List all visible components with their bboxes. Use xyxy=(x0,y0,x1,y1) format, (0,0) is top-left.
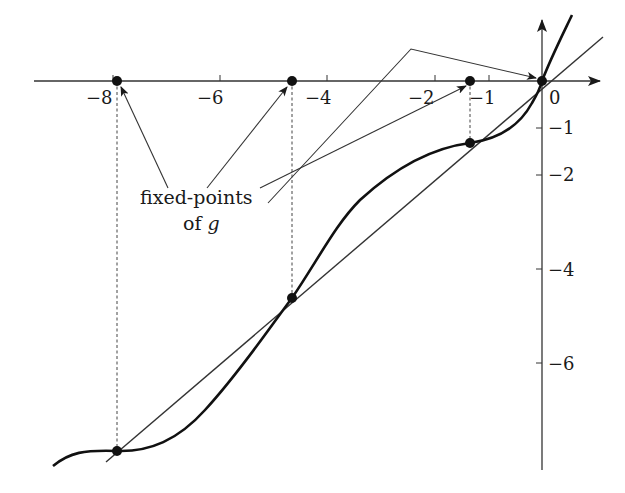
x-tick-label-neg4: −4 xyxy=(305,87,332,108)
y-tick-label-neg1: −1 xyxy=(548,117,575,138)
x-tick-label-0: 0 xyxy=(549,87,560,108)
y-tick-label-neg4: −4 xyxy=(548,259,575,280)
fixed-points-diagram: −8 −6 −4 −2 −1 0 −1 −2 −4 −6 fixed-point… xyxy=(0,0,625,493)
annotation-g-var: g xyxy=(208,212,220,234)
y-ticks xyxy=(536,128,542,363)
annotation-of-text: of xyxy=(183,212,208,234)
identity-line xyxy=(106,37,603,462)
dashed-drop-lines xyxy=(117,81,470,451)
g-curve xyxy=(53,15,572,466)
x-ticks xyxy=(113,75,489,81)
annotation-arrows xyxy=(121,49,536,203)
x-tick-label-neg6: −6 xyxy=(197,87,224,108)
x-tick-label-neg1: −1 xyxy=(469,87,496,108)
y-tick-label-neg2: −2 xyxy=(548,164,575,185)
annotation-fixed-points: fixed-points xyxy=(140,186,253,208)
x-tick-label-neg8: −8 xyxy=(86,87,113,108)
x-tick-label-neg2: −2 xyxy=(408,87,435,108)
y-tick-label-neg6: −6 xyxy=(548,353,575,374)
annotation-of-g: of g xyxy=(183,212,220,234)
